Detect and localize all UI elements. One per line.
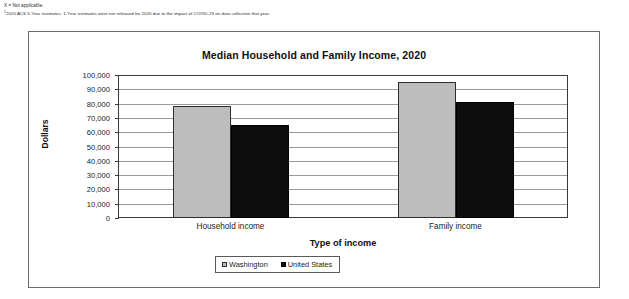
x-axis-tick-label: Family income <box>429 222 482 231</box>
y-axis-tick-label: 70,000 <box>87 113 110 122</box>
y-axis-title: Dollars <box>40 104 50 164</box>
bar-united-states-household-income <box>231 125 289 218</box>
legend-item-united-states[interactable]: United States <box>281 260 332 269</box>
y-axis-tick-label: 90,000 <box>87 85 110 94</box>
footnote-acs-text: 2020 ACS 5-Year estimates. 1-Year estima… <box>6 11 270 16</box>
x-axis-title: Type of income <box>118 238 568 248</box>
y-axis-tick <box>115 218 119 219</box>
footnote-acs-estimates: 12020 ACS 5-Year estimates. 1-Year estim… <box>4 9 564 17</box>
legend-label: United States <box>288 260 332 269</box>
y-axis-tick-label: 0 <box>106 214 110 223</box>
y-axis-tick-labels: 010,00020,00030,00040,00050,00060,00070,… <box>68 75 114 218</box>
legend-swatch-icon <box>222 262 227 267</box>
y-axis-tick-label: 40,000 <box>87 156 110 165</box>
plot-wrapper: Dollars 010,00020,00030,00040,00050,0006… <box>29 32 601 289</box>
chart-legend: WashingtonUnited States <box>215 256 340 273</box>
y-axis-tick-label: 50,000 <box>87 142 110 151</box>
legend-item-washington[interactable]: Washington <box>222 260 268 269</box>
y-axis-tick-label: 20,000 <box>87 185 110 194</box>
y-axis-tick-label: 60,000 <box>87 128 110 137</box>
bars-layer <box>118 75 568 218</box>
footnotes-block: X = Not applicable. 12020 ACS 5-Year est… <box>4 2 564 17</box>
y-axis-tick-label: 100,000 <box>83 71 110 80</box>
x-axis-tick-labels: Household incomeFamily income <box>118 222 568 236</box>
y-axis-tick-label: 30,000 <box>87 171 110 180</box>
chart-frame: Median Household and Family Income, 2020… <box>28 31 600 288</box>
bar-washington-household-income <box>173 106 231 218</box>
x-axis-tick-label: Household income <box>197 222 265 231</box>
legend-swatch-icon <box>281 262 286 267</box>
y-axis-tick-label: 10,000 <box>87 199 110 208</box>
y-axis-tick-label: 80,000 <box>87 99 110 108</box>
footnote-not-applicable: X = Not applicable. <box>4 2 564 9</box>
bar-united-states-family-income <box>456 102 514 218</box>
legend-label: Washington <box>229 260 268 269</box>
bar-washington-family-income <box>398 82 456 218</box>
